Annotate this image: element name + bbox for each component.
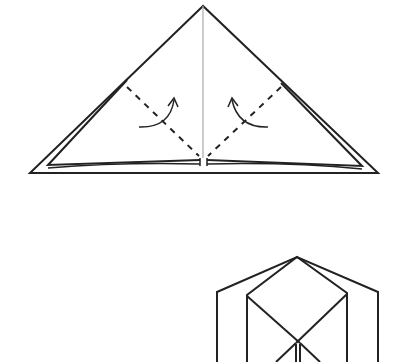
step-fold-triangle — [30, 6, 378, 173]
center-notch — [200, 158, 207, 166]
center-slit — [296, 344, 300, 362]
outer-pentagon — [217, 257, 378, 362]
cross-line-left — [247, 296, 300, 343]
step-result-partial — [217, 257, 378, 362]
cross-line-right — [296, 294, 347, 343]
outer-triangle — [30, 6, 378, 173]
inner-triangle-layer-right — [207, 83, 362, 166]
origami-diagram — [0, 0, 408, 362]
inner-triangle-layer-left — [48, 80, 200, 165]
right-fold-arrow-icon — [228, 98, 268, 127]
cross-line-lower-right — [300, 343, 320, 362]
left-fold-arrow-icon — [139, 98, 178, 127]
cross-line-lower-left — [276, 343, 296, 362]
